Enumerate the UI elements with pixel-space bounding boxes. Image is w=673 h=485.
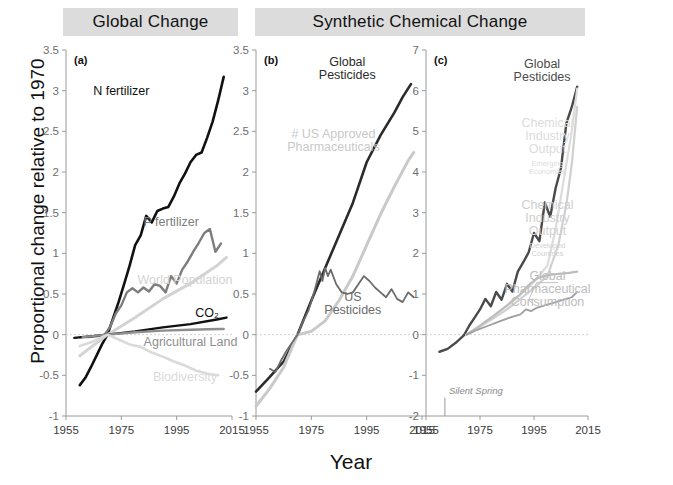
y-tick-label: 2.5	[43, 125, 59, 137]
y-tick-label: 2	[53, 166, 59, 178]
series-label: Global	[529, 269, 565, 283]
x-tick-label: 1955	[53, 424, 79, 436]
series-label: Output	[529, 224, 567, 238]
y-tick-label: 0.5	[233, 288, 249, 300]
series-label: Pharmaceuticals	[287, 140, 379, 154]
series-label: N fertilizer	[93, 84, 149, 98]
series-label: CO₂	[195, 306, 219, 320]
y-tick-label: 3	[243, 85, 249, 97]
y-tick-label: 1.5	[43, 207, 59, 219]
y-tick-label: -1	[239, 410, 249, 422]
y-tick-label: -1	[409, 369, 419, 381]
series-sublabel: Countries	[531, 249, 563, 258]
x-tick-label: 1995	[164, 424, 190, 436]
panel-letter: (c)	[434, 54, 448, 66]
figure-root: Global Change Synthetic Chemical Change …	[0, 0, 673, 485]
x-tick-label: 1955	[243, 424, 269, 436]
series-sublabel: Economies	[529, 167, 566, 176]
y-tick-label: -1	[49, 410, 59, 422]
x-axis-title: Year	[236, 450, 466, 474]
y-tick-label: 3.5	[43, 44, 59, 56]
y-tick-label: 1	[243, 247, 249, 259]
y-tick-label: 3	[413, 207, 419, 219]
y-tick-label: 2.5	[233, 125, 249, 137]
y-tick-label: 0	[413, 329, 419, 341]
series-label: Global	[329, 55, 365, 69]
series-label: Consumption	[511, 295, 585, 309]
panel-letter: (a)	[74, 54, 88, 66]
y-tick-label: 1.5	[233, 207, 249, 219]
panel-a-plot: -1-0.500.511.522.533.51955197519952015(a…	[36, 44, 241, 444]
series-label: P fertilizer	[143, 215, 198, 229]
series-label: Biodiversity	[153, 370, 218, 384]
y-tick-label: 6	[413, 85, 419, 97]
y-tick-label: 0	[53, 329, 59, 341]
series-label: Pesticides	[319, 68, 376, 82]
y-tick-label: 4	[413, 166, 420, 178]
y-tick-label: 0	[243, 329, 249, 341]
x-tick-label: 1975	[467, 424, 493, 436]
x-tick-label: 1975	[299, 424, 325, 436]
series-label: Industry	[525, 129, 570, 143]
y-tick-label: 2	[413, 247, 419, 259]
series-label: Chemical	[521, 198, 573, 212]
y-tick-label: -0.5	[229, 369, 249, 381]
x-tick-label: 1975	[109, 424, 135, 436]
y-tick-label: -0.5	[39, 369, 59, 381]
series-label: Agricultural Land	[144, 335, 238, 349]
y-tick-label: 5	[413, 125, 419, 137]
x-tick-label: 1955	[413, 424, 439, 436]
y-tick-label: 3.5	[233, 44, 249, 56]
y-tick-label: 0.5	[43, 288, 59, 300]
x-tick-label: 2015	[575, 424, 601, 436]
panel-letter: (b)	[264, 54, 278, 66]
series-label: Global	[524, 57, 560, 71]
series-label: Output	[529, 142, 567, 156]
series-label: Pesticides	[324, 303, 381, 317]
panel-c-plot: -2-1012345671955197519952015(c)GlobalPes…	[398, 44, 673, 444]
series-label: Pesticides	[514, 70, 571, 84]
panel-c: -2-1012345671955197519952015(c)GlobalPes…	[398, 44, 673, 444]
series-line	[270, 268, 414, 372]
panel-a: -1-0.500.511.522.533.51955197519952015(a…	[36, 44, 241, 444]
y-tick-label: 7	[413, 44, 419, 56]
header-synthetic-chemical-change: Synthetic Chemical Change	[255, 8, 585, 36]
series-label: Industry	[525, 211, 570, 225]
series-label: Chemical	[521, 116, 573, 130]
annotation-label: Silent Spring	[449, 385, 504, 396]
header-global-change: Global Change	[63, 8, 238, 36]
series-label: US	[344, 290, 361, 304]
y-tick-label: 1	[53, 247, 59, 259]
x-tick-label: 1995	[354, 424, 380, 436]
y-tick-label: -2	[409, 410, 419, 422]
header-global-change-label: Global Change	[92, 12, 208, 32]
header-synthetic-chemical-change-label: Synthetic Chemical Change	[313, 12, 528, 32]
y-tick-label: 3	[53, 85, 59, 97]
series-label: # US Approved	[291, 127, 375, 141]
series-label: Pharmaceutical	[504, 282, 590, 296]
y-tick-label: 1	[413, 288, 419, 300]
series-label: World Population	[137, 273, 232, 287]
x-tick-label: 1995	[521, 424, 547, 436]
y-tick-label: 2	[243, 166, 249, 178]
